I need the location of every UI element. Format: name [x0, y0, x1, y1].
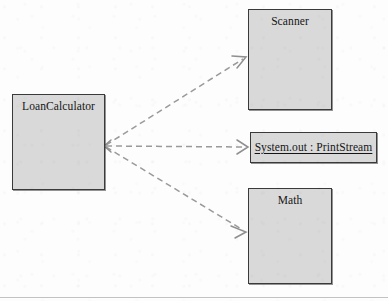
dependency-edge-system-out [106, 146, 245, 147]
diagram-canvas: LoanCalculator Scanner System.out : Prin… [0, 0, 388, 301]
dependency-edge-scanner [106, 59, 243, 145]
object-box-system-out[interactable]: System.out : PrintStream [250, 132, 377, 163]
class-name-loan-calculator: LoanCalculator [13, 95, 104, 114]
class-box-math[interactable]: Math [248, 188, 332, 284]
object-name-system-out: System.out : PrintStream [255, 141, 373, 155]
class-box-scanner[interactable]: Scanner [248, 9, 332, 110]
class-name-math: Math [249, 189, 331, 208]
dependency-edge-math [106, 147, 243, 230]
arrowhead-scanner [232, 56, 246, 68]
page-separator-rule [0, 297, 388, 298]
class-name-scanner: Scanner [249, 10, 331, 29]
class-box-loan-calculator[interactable]: LoanCalculator [12, 94, 105, 190]
